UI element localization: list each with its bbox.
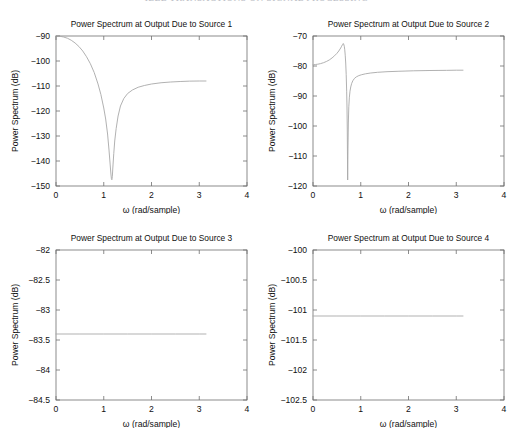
x-tick-label: 4 [501, 190, 506, 200]
x-tick-label: 1 [101, 404, 106, 414]
y-tick-label: −100.5 [280, 275, 307, 285]
y-axis-label: Power Spectrum (dB) [10, 70, 20, 152]
x-tick-label: 0 [54, 190, 59, 200]
y-tick-label: −100 [31, 56, 51, 66]
x-tick-label: 0 [310, 190, 315, 200]
y-tick-label: −102 [287, 365, 307, 375]
x-tick-label: 4 [245, 404, 250, 414]
chart-title: Power Spectrum at Output Due to Source 3 [71, 233, 233, 243]
subplot-grid: Power Spectrum at Output Due to Source 1… [0, 0, 513, 428]
chart-title: Power Spectrum at Output Due to Source 2 [327, 19, 489, 29]
y-tick-label: −83.5 [28, 335, 50, 345]
x-tick-label: 0 [54, 404, 59, 414]
y-axis-label: Power Spectrum (dB) [267, 70, 277, 152]
y-tick-label: −101.5 [280, 335, 307, 345]
y-axis-label: Power Spectrum (dB) [267, 284, 277, 366]
y-tick-label: −130 [31, 131, 51, 141]
y-tick-label: −150 [31, 181, 51, 191]
axis-box [313, 250, 504, 400]
y-tick-label: −110 [288, 151, 307, 161]
figure-page: IEEE TRANSACTIONS ON SIGNAL PROCESSING P… [0, 0, 513, 428]
x-tick-label: 1 [101, 190, 106, 200]
y-tick-label: −101 [287, 305, 307, 315]
y-axis-label: Power Spectrum (dB) [10, 284, 20, 366]
y-tick-label: −140 [31, 156, 51, 166]
y-tick-label: −84 [35, 365, 50, 375]
y-tick-label: −90 [35, 31, 50, 41]
y-tick-label: −84.5 [28, 395, 50, 405]
x-axis-label: ω (rad/sample) [123, 205, 180, 214]
x-tick-label: 1 [358, 190, 363, 200]
x-tick-label: 4 [245, 190, 250, 200]
y-tick-label: −120 [287, 181, 307, 191]
y-tick-label: −100 [287, 245, 307, 255]
x-tick-label: 2 [149, 190, 154, 200]
x-tick-label: 4 [501, 404, 506, 414]
axis-box [56, 36, 247, 186]
data-series-source-1-spectrum [56, 36, 206, 180]
y-tick-label: −90 [292, 91, 307, 101]
panel-source-4: Power Spectrum at Output Due to Source 4… [257, 214, 513, 428]
x-tick-label: 3 [453, 404, 458, 414]
panel-source-2: Power Spectrum at Output Due to Source 2… [257, 0, 513, 214]
x-axis-label: ω (rad/sample) [379, 419, 436, 428]
y-tick-label: −83 [35, 305, 50, 315]
x-tick-label: 1 [358, 404, 363, 414]
axis-box [56, 250, 247, 400]
chart-title: Power Spectrum at Output Due to Source 4 [327, 233, 489, 243]
y-tick-label: −102.5 [280, 395, 307, 405]
y-tick-label: −120 [31, 106, 51, 116]
chart-title: Power Spectrum at Output Due to Source 1 [71, 19, 233, 29]
y-tick-label: −82 [35, 245, 50, 255]
x-tick-label: 3 [197, 190, 202, 200]
x-tick-label: 2 [149, 404, 154, 414]
x-tick-label: 0 [310, 404, 315, 414]
x-tick-label: 2 [406, 404, 411, 414]
x-tick-label: 3 [197, 404, 202, 414]
y-tick-label: −100 [287, 121, 307, 131]
x-tick-label: 3 [453, 190, 458, 200]
y-tick-label: −80 [292, 61, 307, 71]
x-axis-label: ω (rad/sample) [379, 205, 436, 214]
x-tick-label: 2 [406, 190, 411, 200]
y-tick-label: −110 [31, 81, 50, 91]
x-axis-label: ω (rad/sample) [123, 419, 180, 428]
panel-source-1: Power Spectrum at Output Due to Source 1… [0, 0, 257, 214]
axis-box [313, 36, 504, 186]
panel-source-3: Power Spectrum at Output Due to Source 3… [0, 214, 257, 428]
data-series-source-2-spectrum [313, 44, 463, 181]
y-tick-label: −82.5 [28, 275, 50, 285]
y-tick-label: −70 [292, 31, 307, 41]
